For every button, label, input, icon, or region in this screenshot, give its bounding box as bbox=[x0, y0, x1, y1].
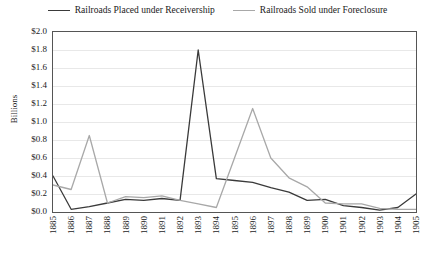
legend-label-foreclosure: Railroads Sold under Foreclosure bbox=[260, 6, 387, 16]
x-tick-label: 1898 bbox=[284, 216, 294, 234]
x-tick-label: 1903 bbox=[375, 216, 385, 234]
x-tick-label: 1890 bbox=[139, 216, 149, 234]
chart-figure: Railroads Placed under Receivership Rail… bbox=[0, 0, 435, 259]
x-tick-label: 1885 bbox=[48, 216, 58, 234]
x-axis-ticks: 1885188618871888188918901891189218931894… bbox=[52, 214, 417, 259]
x-tick-label: 1895 bbox=[230, 216, 240, 234]
y-tick-label: $0.6 bbox=[31, 152, 47, 162]
x-tick-label: 1893 bbox=[193, 216, 203, 234]
legend-swatch-receivership bbox=[48, 10, 70, 11]
legend-label-receivership: Railroads Placed under Receivership bbox=[75, 6, 215, 16]
y-tick-label: $0.2 bbox=[31, 188, 47, 198]
legend-item-foreclosure: Railroads Sold under Foreclosure bbox=[233, 6, 387, 16]
x-tick-label: 1891 bbox=[157, 216, 167, 234]
x-tick-label: 1905 bbox=[411, 216, 421, 234]
x-tick-label: 1897 bbox=[266, 216, 276, 234]
y-tick-label: $1.2 bbox=[31, 98, 47, 108]
x-tick-label: 1886 bbox=[66, 216, 76, 234]
x-tick-label: 1888 bbox=[102, 216, 112, 234]
y-tick-label: $0.4 bbox=[31, 170, 47, 180]
y-tick-label: $1.8 bbox=[31, 44, 47, 54]
x-tick-label: 1892 bbox=[175, 216, 185, 234]
x-tick-label: 1896 bbox=[248, 216, 258, 234]
x-tick-label: 1904 bbox=[393, 216, 403, 234]
x-tick-label: 1902 bbox=[357, 216, 367, 234]
x-tick-label: 1887 bbox=[84, 216, 94, 234]
legend-swatch-foreclosure bbox=[233, 10, 255, 11]
series-line bbox=[53, 50, 416, 210]
y-tick-label: $1.6 bbox=[31, 62, 47, 72]
x-tick-label: 1899 bbox=[302, 216, 312, 234]
chart-legend: Railroads Placed under Receivership Rail… bbox=[0, 6, 435, 16]
legend-item-receivership: Railroads Placed under Receivership bbox=[48, 6, 215, 16]
y-tick-label: $0.0 bbox=[31, 206, 47, 216]
x-tick-label: 1889 bbox=[121, 216, 131, 234]
x-tick-label: 1901 bbox=[338, 216, 348, 234]
x-tick-label: 1894 bbox=[211, 216, 221, 234]
y-axis-ticks: $0.0$0.2$0.4$0.6$0.8$1.0$1.2$1.4$1.6$1.8… bbox=[0, 0, 50, 259]
series-line bbox=[53, 109, 416, 210]
x-tick-label: 1900 bbox=[320, 216, 330, 234]
series-container bbox=[53, 32, 416, 212]
y-tick-label: $0.8 bbox=[31, 134, 47, 144]
y-tick-label: $2.0 bbox=[31, 26, 47, 36]
y-tick-label: $1.0 bbox=[31, 116, 47, 126]
plot-area bbox=[52, 31, 417, 213]
y-tick-label: $1.4 bbox=[31, 80, 47, 90]
